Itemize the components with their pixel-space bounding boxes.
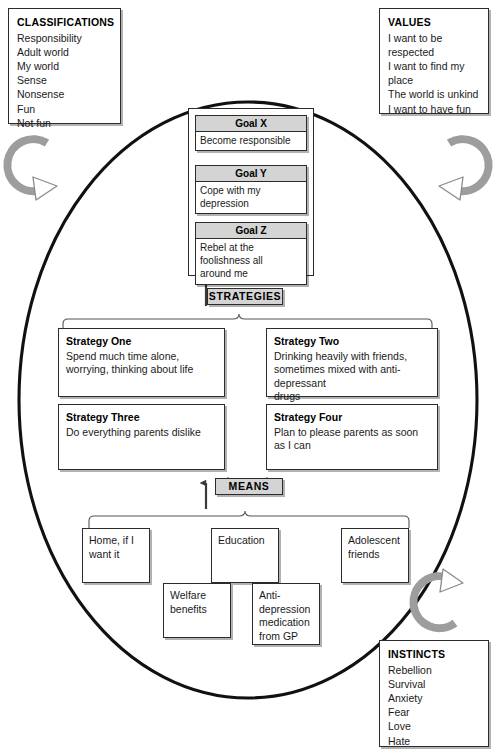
goal-x-label: Goal X [196,116,306,132]
strategy-one-title: Strategy One [66,335,217,349]
classifications-panel: CLASSIFICATIONS Responsibility Adult wor… [8,8,121,124]
brace-strategies-to-strategy-boxes [63,314,432,329]
goal-x-text: Become responsible [196,132,306,150]
goal-z-label: Goal Z [196,223,306,239]
means-adolescent-friends-text: Adolescent friends [348,534,402,561]
means-box-education: Education [211,528,279,583]
means-box-home: Home, if I want it [82,528,150,583]
means-home-text: Home, if I want it [89,534,143,561]
classifications-item: Nonsense [17,87,112,101]
curved-arrow-icon-top-left [7,139,57,200]
strategy-two-text: Drinking heavily with friends, sometimes… [274,350,430,404]
means-anti-depression-text: Anti- depression medication from GP [259,589,313,643]
values-item: I want to have fun [388,102,480,116]
strategy-three-title: Strategy Three [66,411,217,425]
values-item: The world is unkind [388,87,480,101]
diagram-canvas: CLASSIFICATIONS Responsibility Adult wor… [0,0,496,755]
brace-means-to-means-boxes [89,511,409,528]
classifications-item: Not fun [17,116,112,130]
classifications-heading: CLASSIFICATIONS [17,16,112,30]
means-box-welfare-benefits: Welfare benefits [163,583,231,638]
means-box-adolescent-friends: Adolescent friends [341,528,409,583]
instincts-item: Hate [388,734,480,748]
strategy-two-title: Strategy Two [274,335,430,349]
curved-arrow-icon-bottom-right [413,569,463,628]
classifications-item: Sense [17,73,112,87]
instincts-item: Love [388,719,480,733]
values-item: I want to be respected [388,31,480,59]
means-label: MEANS [215,478,283,495]
instincts-item: Anxiety [388,691,480,705]
instincts-heading: INSTINCTS [388,648,480,662]
strategy-box-two: Strategy Two Drinking heavily with frien… [266,328,438,397]
classifications-item: Fun [17,102,112,116]
strategy-box-three: Strategy Three Do everything parents dis… [58,404,225,470]
strategy-one-text: Spend much time alone, worrying, thinkin… [66,350,217,377]
strategy-four-title: Strategy Four [274,411,430,425]
values-item: I want to find my place [388,59,480,87]
means-education-text: Education [218,534,272,548]
strategy-box-one: Strategy One Spend much time alone, worr… [58,328,225,397]
goals-container: Goal X Become responsible Goal Y Cope wi… [188,108,314,276]
instincts-item: Fear [388,705,480,719]
strategies-label: STRATEGIES [207,288,283,305]
classifications-item: My world [17,59,112,73]
strategy-three-text: Do everything parents dislike [66,426,217,440]
instincts-item: Survival [388,677,480,691]
classifications-item: Responsibility [17,31,112,45]
instincts-panel: INSTINCTS Rebellion Survival Anxiety Fea… [379,640,489,747]
instincts-item: Rebellion [388,663,480,677]
strategy-four-text: Plan to please parents as soon as I can [274,426,430,453]
strategy-box-four: Strategy Four Plan to please parents as … [266,404,438,470]
values-heading: VALUES [388,16,480,30]
goal-y-label: Goal Y [196,166,306,182]
means-welfare-benefits-text: Welfare benefits [170,589,224,616]
goal-y-text: Cope with my depression [196,182,306,213]
means-box-anti-depression-medication: Anti- depression medication from GP [252,583,320,645]
classifications-item: Adult world [17,45,112,59]
curved-arrow-icon-top-right [439,139,489,200]
goal-card-y: Goal Y Cope with my depression [195,165,307,214]
goal-card-x: Goal X Become responsible [195,115,307,151]
values-panel: VALUES I want to be respected I want to … [379,8,489,114]
goal-z-text: Rebel at the foolishness all around me [196,239,306,284]
goal-card-z: Goal Z Rebel at the foolishness all arou… [195,222,307,285]
